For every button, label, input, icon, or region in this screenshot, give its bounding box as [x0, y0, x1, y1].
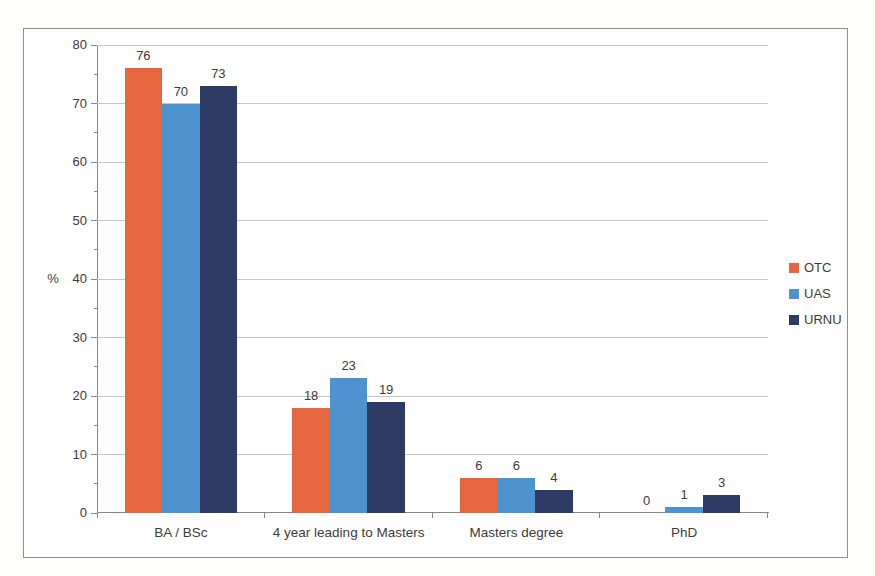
y-axis-tick: [91, 337, 97, 338]
y-axis-tick: [91, 396, 97, 397]
x-axis-tick: [599, 512, 600, 518]
bar-otc: [460, 478, 498, 513]
bar-value-label: 19: [349, 382, 424, 397]
y-tick-label: 80: [41, 37, 87, 53]
y-axis-minor-tick: [94, 249, 97, 250]
category-label: Masters degree: [433, 523, 601, 543]
legend-label: URNU: [804, 313, 842, 326]
y-axis-tick: [91, 162, 97, 163]
y-tick-label: 50: [41, 213, 87, 229]
y-tick-label: 20: [41, 388, 87, 404]
legend-swatch: [789, 263, 799, 273]
x-axis-tick: [767, 512, 768, 518]
x-axis-tick: [264, 512, 265, 518]
y-tick-label: 60: [41, 154, 87, 170]
y-axis-minor-tick: [94, 308, 97, 309]
y-axis-tick: [91, 45, 97, 46]
y-axis-minor-tick: [94, 132, 97, 133]
bar-otc: [292, 408, 330, 513]
bar-uas: [330, 378, 368, 513]
legend-item: UAS: [789, 287, 842, 300]
bar-uas: [162, 104, 200, 514]
y-axis-minor-tick: [94, 191, 97, 192]
bar-urnu: [367, 402, 405, 513]
category-label: BA / BSc: [97, 523, 265, 543]
legend-label: UAS: [804, 287, 831, 300]
bar-value-label: 23: [311, 358, 386, 373]
bar-value-label: 73: [181, 66, 256, 81]
bar-value-label: 4: [516, 470, 591, 485]
bar-urnu: [535, 490, 573, 513]
legend-item: URNU: [789, 313, 842, 326]
chart-frame: % 01020304050607080BA / BSc4 year leadin…: [23, 28, 848, 558]
y-axis-tick: [91, 103, 97, 104]
y-axis-tick: [91, 454, 97, 455]
y-tick-label: 10: [41, 447, 87, 463]
legend-swatch: [789, 315, 799, 325]
legend-label: OTC: [804, 261, 831, 274]
bar-urnu: [703, 495, 741, 513]
category-label: 4 year leading to Masters: [265, 523, 433, 543]
bar-otc: [125, 68, 163, 513]
y-axis-minor-tick: [94, 483, 97, 484]
bar-urnu: [200, 86, 238, 513]
y-axis-tick: [91, 220, 97, 221]
page: % 01020304050607080BA / BSc4 year leadin…: [0, 0, 875, 576]
y-tick-label: 0: [41, 505, 87, 521]
y-axis-minor-tick: [94, 74, 97, 75]
x-axis-tick: [432, 512, 433, 518]
y-tick-label: 40: [41, 271, 87, 287]
legend: OTCUASURNU: [789, 261, 842, 326]
y-tick-label: 30: [41, 330, 87, 346]
y-axis-minor-tick: [94, 366, 97, 367]
category-label: PhD: [600, 523, 768, 543]
y-axis-tick: [91, 279, 97, 280]
x-axis-tick: [97, 512, 98, 518]
legend-swatch: [789, 289, 799, 299]
y-tick-label: 70: [41, 96, 87, 112]
gridline: [97, 45, 768, 46]
plot-area: % 01020304050607080BA / BSc4 year leadin…: [97, 45, 768, 513]
legend-item: OTC: [789, 261, 842, 274]
bar-value-label: 76: [106, 48, 181, 63]
bar-uas: [665, 507, 703, 513]
y-axis-minor-tick: [94, 425, 97, 426]
bar-value-label: 3: [684, 475, 759, 490]
